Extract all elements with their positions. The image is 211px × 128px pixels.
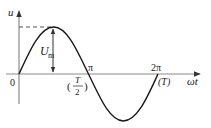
amplitude-subscript: m (48, 51, 55, 60)
sine-wave-diagram: u 0 ωt U m π ( T 2 ) 2π (T) (0, 0, 211, 128)
tick-pi-paren-close: ) (84, 80, 88, 93)
x-axis-label: ωt (187, 75, 199, 87)
origin-label: 0 (10, 77, 15, 88)
tick-2pi-alt-label: (T) (158, 76, 171, 88)
tick-pi-alt-numerator: T (75, 75, 81, 85)
tick-pi-label: π (88, 62, 93, 73)
tick-pi-alt-denominator: 2 (75, 87, 80, 97)
y-axis-label: u (8, 6, 14, 18)
tick-2pi-label: 2π (151, 62, 161, 73)
tick-pi-paren-open: ( (67, 80, 71, 93)
